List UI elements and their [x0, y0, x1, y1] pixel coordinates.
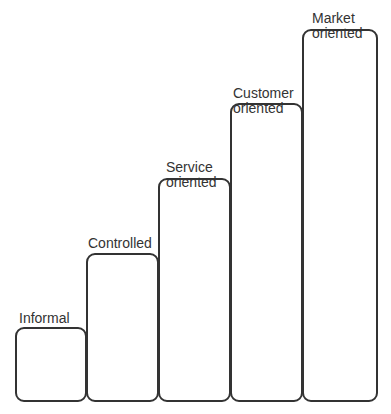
step-label-service-line2: oriented [166, 175, 217, 190]
step-box-informal [15, 327, 87, 402]
step-label-controlled: Controlled [88, 236, 152, 251]
step-box-market-oriented [302, 29, 378, 402]
step-label-market-line2: oriented [312, 26, 363, 41]
step-label-customer-oriented: Customer oriented [233, 86, 294, 116]
step-label-customer-line2: oriented [233, 101, 294, 116]
step-label-market-line1: Market [312, 11, 363, 26]
step-box-customer-oriented [230, 103, 303, 402]
step-label-controlled-line1: Controlled [88, 235, 152, 251]
step-label-service-oriented: Service oriented [166, 160, 217, 190]
maturity-staircase-diagram: Informal Controlled Service oriented Cus… [0, 0, 391, 414]
step-box-service-oriented [158, 178, 231, 402]
step-label-customer-line1: Customer [233, 86, 294, 101]
step-label-informal-line1: Informal [19, 310, 70, 326]
step-label-market-oriented: Market oriented [312, 11, 363, 41]
step-label-informal: Informal [19, 311, 70, 326]
step-box-controlled [86, 253, 159, 402]
step-label-service-line1: Service [166, 160, 217, 175]
